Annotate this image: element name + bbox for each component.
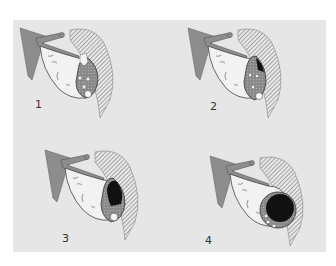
panel-label-4: 4 — [205, 234, 212, 247]
diagram: 1 2 3 4 — [0, 0, 336, 266]
panel-4: 4 — [205, 156, 303, 247]
panel-label-2: 2 — [210, 100, 217, 113]
panel-3: 3 — [45, 150, 138, 245]
panel-2: 2 — [188, 28, 281, 118]
panel-1: 1 — [20, 28, 113, 118]
panel-label-3: 3 — [62, 232, 69, 245]
panel-label-1: 1 — [35, 98, 42, 111]
lesion-4 — [260, 192, 296, 228]
